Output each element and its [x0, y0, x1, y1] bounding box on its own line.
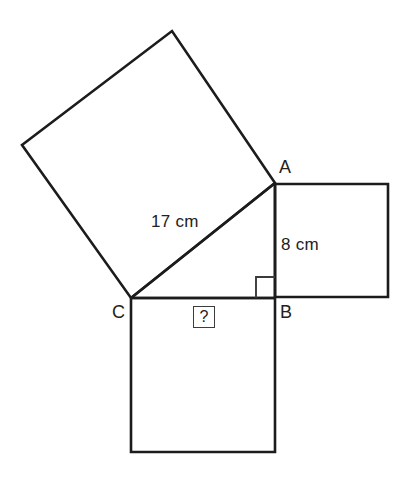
square-on-hypotenuse-ac — [22, 31, 275, 298]
triangle-side-ac-hypotenuse — [131, 183, 275, 298]
leg-measure-label: 8 cm — [281, 236, 319, 253]
unknown-value-label: ? — [200, 309, 209, 325]
vertex-label-a: A — [279, 158, 291, 176]
geometry-figure-canvas: A B C 17 cm 8 cm ? — [0, 0, 409, 485]
geometry-drawing — [0, 0, 409, 485]
right-angle-marker-icon — [256, 277, 275, 298]
hypotenuse-measure-label: 17 cm — [151, 213, 199, 230]
unknown-value-box: ? — [193, 306, 215, 328]
vertex-label-c: C — [112, 303, 125, 321]
vertex-label-b: B — [280, 303, 292, 321]
